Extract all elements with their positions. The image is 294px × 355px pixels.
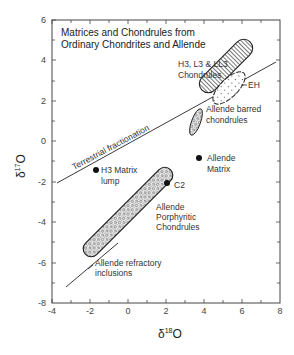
y-axis-label: δ17O bbox=[14, 154, 28, 178]
eh-label: EH bbox=[248, 80, 260, 90]
c2-label: C2 bbox=[174, 180, 185, 190]
svg-text:-6: -6 bbox=[38, 258, 46, 268]
svg-text:0: 0 bbox=[41, 136, 46, 146]
svg-text:2: 2 bbox=[41, 96, 46, 106]
svg-text:6: 6 bbox=[239, 306, 244, 316]
h3-matrix-label-line-1: H3 Matrix bbox=[101, 165, 138, 175]
h3-matrix-label-line-2: lump bbox=[101, 176, 120, 186]
allende-matrix-label-line-1: Allende bbox=[207, 153, 236, 163]
porphyritic-label-line-2: Porphyritic bbox=[156, 212, 197, 222]
barred-label-line-1: Allende barred bbox=[206, 104, 262, 114]
h3l3-label-line-1: H3, L3 & LL3 bbox=[178, 59, 228, 69]
refractory-leader bbox=[88, 265, 93, 269]
refractory-label-line-1: Allende refractory bbox=[95, 258, 162, 268]
chart-title-line-2: Ordinary Chondrites and Allende bbox=[61, 39, 206, 50]
svg-text:6: 6 bbox=[41, 15, 46, 25]
refractory-label-line-2: inclusions bbox=[95, 268, 132, 278]
x-axis-label: δ18O bbox=[158, 327, 182, 341]
svg-text:-8: -8 bbox=[38, 298, 46, 308]
x-tick-labels: -4 -2 0 2 4 6 8 bbox=[48, 306, 283, 316]
svg-text:2: 2 bbox=[163, 306, 168, 316]
c2-point bbox=[164, 180, 170, 186]
h3l3-label-line-2: Chondrules bbox=[178, 70, 221, 80]
y-tick-labels: 6 4 2 0 -2 -4 -6 -8 bbox=[38, 15, 46, 308]
allende-barred-chondrules-region bbox=[187, 107, 205, 136]
svg-text:-4: -4 bbox=[38, 217, 46, 227]
allende-matrix-point bbox=[196, 155, 202, 161]
allende-matrix-label-line-2: Matrix bbox=[207, 164, 231, 174]
svg-text:8: 8 bbox=[277, 306, 282, 316]
chart-title-line-1: Matrices and Chondrules from bbox=[61, 27, 195, 38]
svg-text:4: 4 bbox=[201, 306, 206, 316]
svg-text:0: 0 bbox=[125, 306, 130, 316]
porphyritic-label-line-3: Chondrules bbox=[156, 222, 199, 232]
h3-matrix-lump-point bbox=[93, 167, 99, 173]
svg-text:-2: -2 bbox=[86, 306, 94, 316]
chart-canvas: -4 -2 0 2 4 6 8 6 4 2 0 -2 -4 -6 -8 δ18O… bbox=[0, 0, 294, 355]
svg-text:-2: -2 bbox=[38, 177, 46, 187]
barred-label-line-2: chondrules bbox=[206, 115, 248, 125]
porphyritic-label-line-1: Allende bbox=[156, 202, 185, 212]
svg-text:4: 4 bbox=[41, 55, 46, 65]
svg-text:-4: -4 bbox=[48, 306, 56, 316]
